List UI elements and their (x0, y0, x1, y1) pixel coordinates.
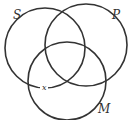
label-m: M (97, 102, 111, 116)
label-s: S (13, 8, 21, 22)
venn-diagram: S P M x (0, 0, 132, 120)
label-p: P (111, 8, 121, 22)
x-mark: x (42, 83, 47, 92)
